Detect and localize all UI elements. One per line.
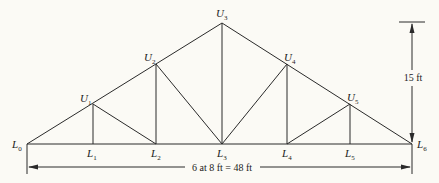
label-L1: L1	[86, 147, 97, 162]
right-top-chord	[222, 23, 412, 144]
label-L2: L2	[150, 147, 161, 162]
truss-diagram: 6 at 8 ft = 48 ft 15 ft L0 L1 L2 L3 L4 L…	[0, 0, 439, 183]
node-labels: L0 L1 L2 L3 L4 L5 L6 U1 U2 U3 U4 U5	[11, 7, 427, 162]
member-U4-L3	[222, 64, 287, 144]
label-L6: L6	[416, 138, 427, 153]
height-label: 15 ft	[404, 72, 423, 83]
label-U3: U3	[216, 7, 228, 22]
member-U2-L3	[156, 64, 222, 144]
span-label: 6 at 8 ft = 48 ft	[192, 162, 252, 173]
label-L0: L0	[11, 138, 22, 153]
label-U1: U1	[80, 92, 92, 107]
arrow-left-icon	[28, 165, 38, 170]
member-U1-L2	[93, 104, 156, 144]
arrow-right-icon	[401, 165, 411, 170]
label-U2: U2	[144, 51, 156, 66]
label-L5: L5	[344, 147, 355, 162]
arrow-up-icon	[410, 23, 415, 33]
label-L4: L4	[281, 147, 292, 162]
truss-svg: 6 at 8 ft = 48 ft 15 ft L0 L1 L2 L3 L4 L…	[0, 0, 439, 183]
arrow-down-icon	[410, 133, 415, 143]
left-top-chord	[27, 23, 222, 144]
label-L3: L3	[216, 147, 227, 162]
truss-members	[27, 23, 412, 144]
member-U5-L4	[287, 104, 350, 144]
